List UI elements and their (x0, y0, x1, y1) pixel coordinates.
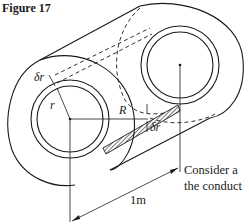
label-length: 1m (130, 193, 146, 207)
hidden-line-top-1 (55, 28, 150, 75)
length-arrowhead-right (170, 168, 178, 174)
cylinder-right-end (140, 3, 243, 118)
label-r: r (50, 98, 55, 112)
label-delta-r-top: δr (34, 70, 45, 84)
hidden-line-top-2 (57, 34, 152, 83)
length-arrow (72, 168, 178, 221)
label-delta-r-bottom: δr (150, 120, 161, 134)
figure-title: Figure 17 (2, 1, 51, 15)
cylinder-top-edge (40, 6, 140, 60)
label-R: R (118, 103, 127, 117)
caption-line-1: Consider a (184, 163, 238, 177)
length-arrowhead-left (72, 215, 80, 221)
caption-line-2: the conduct (184, 179, 242, 193)
coaxial-cable-diagram: Figure 17 r δr R δr 1m Consider a the co… (0, 0, 249, 224)
radius-r-line (57, 88, 70, 119)
